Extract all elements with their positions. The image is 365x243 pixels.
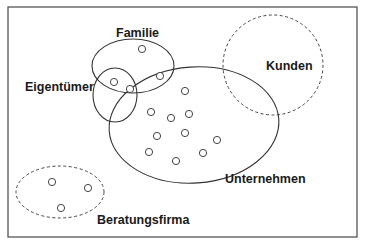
member-dot [57, 204, 64, 211]
member-dots [48, 45, 220, 211]
member-dot [213, 136, 220, 143]
set-familie [92, 39, 174, 93]
set-eigentuemer [93, 68, 137, 122]
member-dot [145, 148, 152, 155]
member-dot [126, 85, 133, 92]
label-unternehmen: Unternehmen [225, 172, 306, 186]
label-beratungsfirma: Beratungsfirma [97, 213, 190, 227]
member-dot [199, 149, 206, 156]
member-dot [172, 157, 179, 164]
member-dot [181, 129, 188, 136]
set-unternehmen [105, 61, 283, 189]
member-dot [181, 87, 188, 94]
member-dot [48, 178, 55, 185]
label-kunden: Kunden [266, 59, 313, 73]
member-dot [153, 132, 160, 139]
member-dot [185, 110, 192, 117]
member-dot [167, 114, 174, 121]
member-dot [156, 72, 163, 79]
venn-diagram: Familie Eigentümer Kunden Unternehmen Be… [0, 0, 365, 243]
member-dot [84, 184, 91, 191]
diagram-frame [8, 7, 357, 237]
label-eigentuemer: Eigentümer [25, 80, 94, 94]
label-familie: Familie [116, 26, 159, 40]
member-dot [110, 78, 117, 85]
member-dot [147, 108, 154, 115]
member-dot [138, 45, 145, 52]
